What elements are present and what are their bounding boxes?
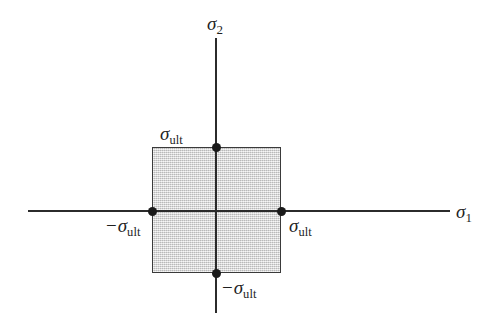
failure-envelope-figure: σ2 σ1 σult σult −σult −σult <box>0 0 496 331</box>
vertex-label-bottom: −σult <box>222 278 257 301</box>
sigma-1-axis-label: σ1 <box>456 202 472 224</box>
vertex-label-left: −σult <box>106 216 141 239</box>
ult-subscript: ult <box>127 225 141 239</box>
sigma-glyph: σ <box>289 215 298 236</box>
minus-sign: − <box>222 277 234 298</box>
sigma-glyph: σ <box>207 13 216 34</box>
sigma-1-subscript: 1 <box>465 210 472 225</box>
sigma-1-axis-line <box>28 210 450 212</box>
vertex-marker-right <box>277 207 286 216</box>
vertex-label-right: σult <box>289 216 312 239</box>
minus-sign: − <box>106 215 118 236</box>
sigma-2-subscript: 2 <box>216 22 223 37</box>
ult-subscript: ult <box>169 133 183 147</box>
sigma-glyph: σ <box>456 201 465 222</box>
ult-subscript: ult <box>298 225 312 239</box>
vertex-marker-top <box>212 143 221 152</box>
vertex-marker-left <box>148 207 157 216</box>
sigma-glyph: σ <box>160 123 169 144</box>
ult-subscript: ult <box>243 287 257 301</box>
vertex-marker-bottom <box>212 269 221 278</box>
sigma-glyph: σ <box>234 277 243 298</box>
vertex-label-top: σult <box>160 124 183 147</box>
sigma-2-axis-label: σ2 <box>207 14 223 36</box>
sigma-glyph: σ <box>118 215 127 236</box>
